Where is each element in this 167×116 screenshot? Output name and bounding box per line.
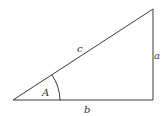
label-angle-a: A — [41, 87, 49, 98]
hypotenuse-side-c — [13, 9, 153, 100]
angle-arc — [52, 75, 60, 100]
triangle-diagram: A c a b — [0, 0, 167, 116]
label-side-b: b — [84, 104, 90, 115]
label-side-c: c — [77, 43, 83, 54]
label-side-a: a — [154, 50, 160, 61]
